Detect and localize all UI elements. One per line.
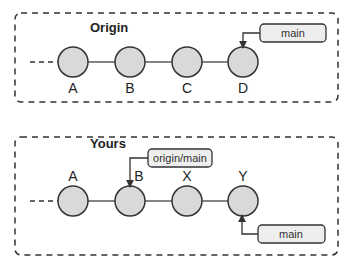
commit-label: A: [68, 80, 78, 96]
origin-panel: Origin A B C D main: [15, 13, 338, 102]
commit-node-a: [58, 47, 88, 77]
commit-label: B: [125, 80, 134, 96]
branch-tag-label: main: [279, 228, 303, 240]
commit-node-b: [115, 47, 145, 77]
commit-label: A: [68, 168, 78, 184]
yours-panel: Yours A B X Y origin/main main: [15, 136, 338, 255]
branch-tag-label: origin/main: [153, 152, 207, 164]
commit-node-b: [115, 186, 145, 216]
commit-label: C: [182, 80, 192, 96]
commit-node-c: [172, 47, 202, 77]
branch-tag-label: main: [281, 27, 305, 39]
arrow-icon: [243, 33, 260, 45]
commit-label: D: [238, 80, 248, 96]
commit-node-d: [228, 47, 258, 77]
commit-node-a: [58, 186, 88, 216]
commit-label: X: [182, 168, 192, 184]
arrow-icon: [242, 218, 258, 234]
origin-panel-title: Origin: [90, 20, 128, 35]
git-diagram: Origin A B C D main Yours A B X Y orig: [0, 0, 348, 267]
yours-panel-title: Yours: [90, 136, 126, 151]
commit-node-y: [228, 186, 258, 216]
commit-node-x: [172, 186, 202, 216]
commit-label: B: [134, 168, 143, 184]
commit-label: Y: [238, 168, 248, 184]
